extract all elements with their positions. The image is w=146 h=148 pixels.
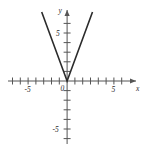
coordinate-plane-svg: -5 0 5 5 -5 x y [0, 0, 146, 148]
x-axis-group [8, 78, 136, 85]
x-axis-label: x [135, 84, 140, 93]
y-axis-arrowhead [65, 10, 70, 16]
graph-figure: -5 0 5 5 -5 x y [0, 0, 146, 148]
x-tick-label-neg5: -5 [25, 85, 31, 94]
origin-label: 0 [61, 84, 65, 93]
x-axis-arrowhead [130, 78, 136, 83]
y-tick-label-pos5: 5 [56, 29, 60, 38]
y-tick-label-neg5: -5 [53, 125, 59, 134]
x-tick-label-pos5: 5 [112, 85, 116, 94]
y-axis-group [64, 10, 71, 144]
y-axis-label: y [58, 6, 63, 15]
